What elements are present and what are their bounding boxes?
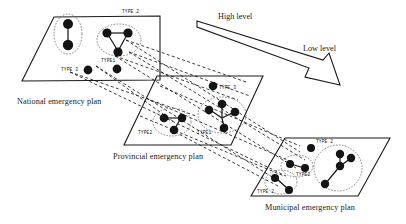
caption-national-plan: National emergency plan (17, 97, 101, 106)
type-label-national-3: TYPE 3 (61, 67, 78, 72)
caption-municipal-plan: Municipal emergency plan (265, 203, 355, 212)
level-gradient-arrow (197, 21, 340, 85)
figure-canvas: TYPE 2 TYPE1 TYPE 3 TYPE2 TYPE1 TYPE 3 T… (0, 0, 406, 224)
node-national-iso-1 (84, 66, 93, 75)
type-label-provincial-2: TYPE2 (138, 130, 152, 135)
plane-municipal (251, 138, 390, 196)
type-label-provincial-3: TYPE 3 (219, 85, 236, 90)
node-municipal-iso (307, 144, 315, 152)
caption-provincial-plan: Provincial emergency plan (113, 152, 203, 161)
type-label-municipal-1: TYPE2 (296, 172, 310, 177)
node-national-iso-2 (113, 65, 122, 74)
label-high-level: High level (218, 12, 252, 21)
label-low-level: Low level (303, 44, 336, 53)
type-label-provincial-1: TYPE1 (197, 130, 211, 135)
node-provincial-iso (209, 82, 218, 91)
type-label-municipal-3: TYPE 2 (316, 139, 333, 144)
plane-municipal-outline (251, 138, 390, 196)
type-label-national-2: TYPE 2 (122, 9, 139, 14)
diagram-svg (0, 0, 406, 224)
type-label-national-1: TYPE1 (101, 58, 115, 63)
type-label-municipal-2: TYPE 2 (257, 189, 274, 194)
